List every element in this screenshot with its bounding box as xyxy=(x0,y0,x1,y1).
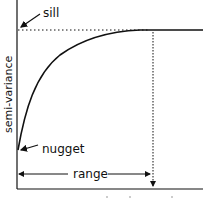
semivariogram-diagram: sill nugget range semi-variance xyxy=(0,0,203,198)
nugget-label: nugget xyxy=(42,142,85,156)
variogram-curve xyxy=(18,30,203,150)
y-axis-label: semi-variance xyxy=(2,55,15,133)
sill-label: sill xyxy=(43,6,59,20)
sill-arrow-icon xyxy=(21,14,40,27)
range-label: range xyxy=(73,167,108,181)
nugget-arrow-icon xyxy=(21,145,38,150)
